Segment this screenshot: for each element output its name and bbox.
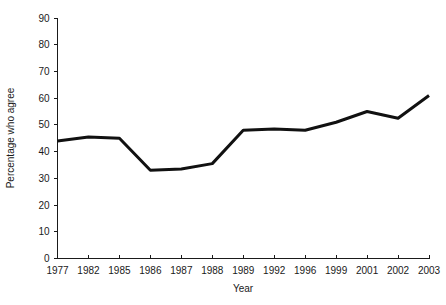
y-tick-label: 20 <box>38 200 50 211</box>
x-tick-label: 1988 <box>201 265 224 276</box>
y-tick-label: 40 <box>38 146 50 157</box>
x-axis-title: Year <box>233 283 254 294</box>
x-tick-label: 1987 <box>170 265 193 276</box>
x-tick-label: 1989 <box>232 265 255 276</box>
y-tick-label: 50 <box>38 119 50 130</box>
y-tick-label: 90 <box>38 13 50 24</box>
y-tick-label: 60 <box>38 93 50 104</box>
y-tick-label: 10 <box>38 226 50 237</box>
x-tick-label: 1999 <box>325 265 348 276</box>
y-tick-label: 70 <box>38 66 50 77</box>
y-tick-label: 30 <box>38 173 50 184</box>
x-tick-label: 2003 <box>418 265 441 276</box>
x-tick-label: 1992 <box>263 265 286 276</box>
y-tick-label: 0 <box>44 253 50 264</box>
line-chart: 0102030405060708090 Percentage who agree… <box>0 0 446 305</box>
y-tick-label: 80 <box>38 39 50 50</box>
x-tick-label: 1977 <box>46 265 69 276</box>
x-tick-label: 2002 <box>387 265 410 276</box>
x-tick-label: 1985 <box>108 265 131 276</box>
y-axis-title: Percentage who agree <box>5 87 16 188</box>
x-tick-label: 2001 <box>356 265 379 276</box>
x-tick-label: 1982 <box>77 265 100 276</box>
chart-canvas: 0102030405060708090 Percentage who agree… <box>0 0 446 305</box>
x-tick-label: 1986 <box>139 265 162 276</box>
x-tick-label: 1996 <box>294 265 317 276</box>
